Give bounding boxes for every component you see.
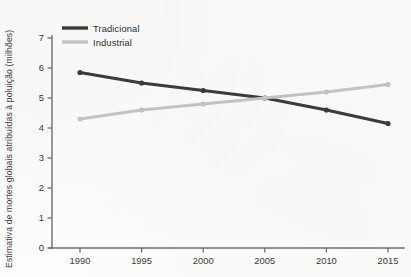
data-point-marker — [139, 80, 144, 85]
x-tick-label: 2000 — [193, 255, 214, 266]
x-tick-label: 1995 — [131, 255, 152, 266]
line-chart-plot: 01234567 199019952000200520102015 Tradic… — [0, 0, 411, 277]
data-point-marker — [77, 116, 82, 121]
chart-legend: TradicionalIndustrial — [62, 23, 140, 48]
y-tick-label: 1 — [39, 212, 44, 223]
data-point-marker — [324, 107, 329, 112]
data-point-marker — [385, 82, 390, 87]
data-point-marker — [324, 89, 329, 94]
legend-label: Industrial — [93, 37, 132, 48]
data-point-marker — [139, 107, 144, 112]
y-axis: 01234567 — [39, 32, 52, 253]
data-point-marker — [201, 101, 206, 106]
y-tick-label: 4 — [39, 122, 44, 133]
chart-figure: Estimativa de mortes globais atribuídas … — [0, 0, 411, 277]
data-point-marker — [77, 70, 82, 75]
y-tick-label: 5 — [39, 92, 44, 103]
series-layer — [77, 70, 390, 126]
x-tick-label: 2015 — [378, 255, 399, 266]
y-tick-label: 6 — [39, 62, 44, 73]
y-tick-label: 0 — [39, 242, 44, 253]
legend-label: Tradicional — [93, 23, 140, 34]
data-point-marker — [262, 95, 267, 100]
x-axis: 199019952000200520102015 — [49, 248, 404, 266]
data-point-marker — [201, 88, 206, 93]
y-tick-label: 2 — [39, 182, 44, 193]
y-tick-label: 3 — [39, 152, 44, 163]
x-tick-label: 2005 — [254, 255, 275, 266]
x-tick-label: 1990 — [70, 255, 91, 266]
data-point-marker — [385, 121, 390, 126]
series-line — [80, 73, 388, 124]
y-tick-label: 7 — [39, 32, 44, 43]
x-tick-label: 2010 — [316, 255, 337, 266]
